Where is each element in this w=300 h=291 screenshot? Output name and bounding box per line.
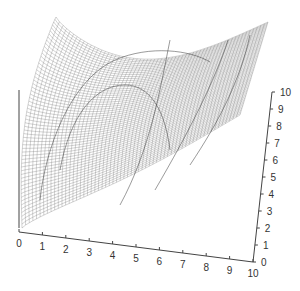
- y-tick-label: 8: [276, 121, 282, 132]
- y-tick-label: 0: [261, 257, 267, 268]
- y-tick-label: 1: [263, 240, 269, 251]
- x-tick-label: 10: [247, 268, 259, 279]
- x-axis: 012345678910: [16, 229, 259, 279]
- y-tick-label: 3: [267, 206, 273, 217]
- x-tick-label: 0: [16, 238, 22, 249]
- surface-mesh: [21, 17, 268, 228]
- y-tick-label: 2: [265, 223, 271, 234]
- x-tick-label: 3: [86, 247, 92, 258]
- y-tick-label: 4: [269, 189, 275, 200]
- x-tick-label: 6: [157, 256, 163, 267]
- x-tick-label: 4: [110, 250, 116, 261]
- y-tick-label: 9: [278, 104, 284, 115]
- x-tick-label: 9: [227, 265, 233, 276]
- x-tick-label: 7: [180, 259, 186, 270]
- x-tick-label: 2: [63, 244, 69, 255]
- x-tick-label: 8: [203, 262, 209, 273]
- y-tick-label: 6: [272, 155, 278, 166]
- x-tick-label: 1: [40, 241, 46, 252]
- y-tick-label: 10: [280, 87, 292, 98]
- y-tick-label: 5: [271, 172, 277, 183]
- y-axis: 012345678910: [253, 87, 292, 268]
- surface-plot: 012345678910 012345678910: [0, 0, 300, 291]
- x-tick-label: 5: [133, 253, 139, 264]
- y-tick-label: 7: [274, 138, 280, 149]
